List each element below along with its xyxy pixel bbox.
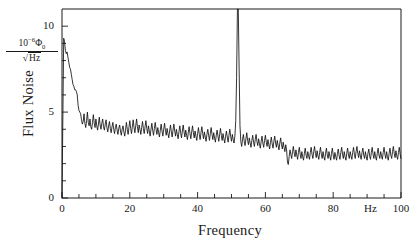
x-tick-label-0: 0: [42, 202, 82, 214]
x-tick-label-80: 80: [313, 202, 353, 214]
figure-flux-noise-spectrum: 10−6Φ0 √Hz Flux Noise Frequency 02040608…: [0, 0, 415, 247]
y-axis-title: Flux Noise: [20, 29, 37, 179]
plot-frame: [62, 9, 401, 198]
series-line-0: [62, 9, 401, 198]
x-axis-unit-label: Hz: [350, 202, 390, 214]
y-tick-label-5: 5: [14, 105, 54, 117]
x-tick-label-40: 40: [178, 202, 218, 214]
data-series-group: [62, 9, 401, 198]
x-tick-label-20: 20: [110, 202, 150, 214]
y-tick-label-0: 0: [14, 191, 54, 203]
x-axis-title: Frequency: [130, 222, 330, 239]
x-tick-label-60: 60: [245, 202, 285, 214]
x-axis-ticks: [62, 192, 401, 198]
y-tick-label-10: 10: [14, 19, 54, 31]
